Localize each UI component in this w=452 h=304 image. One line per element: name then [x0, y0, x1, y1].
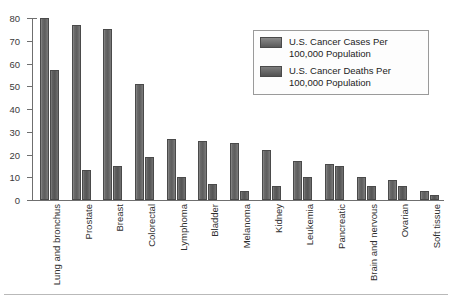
bar-cases	[198, 141, 207, 200]
y-axis-tick-label: 20	[0, 151, 20, 161]
footer-divider	[4, 294, 448, 295]
y-axis-tick	[27, 200, 32, 201]
legend-swatch-deaths-icon	[260, 66, 282, 77]
legend-item-deaths: U.S. Cancer Deaths Per 100,000 Populatio…	[260, 65, 422, 88]
y-axis-tick	[27, 155, 32, 156]
y-axis-tick-label: 0	[0, 196, 20, 206]
bar-group	[72, 18, 92, 200]
bar-cases	[72, 25, 81, 200]
y-axis-tick	[27, 132, 32, 133]
bar-deaths	[113, 166, 122, 200]
bar-cases	[357, 177, 366, 200]
x-axis-label: Breast	[115, 204, 125, 231]
bar-group	[103, 18, 123, 200]
bar-group	[135, 18, 155, 200]
y-axis-tick	[27, 64, 32, 65]
legend-label-cases-line1: U.S. Cancer Cases Per	[289, 36, 388, 47]
y-axis-tick-label: 60	[0, 60, 20, 70]
bar-cases	[388, 180, 397, 200]
bar-deaths	[145, 157, 154, 200]
bar-deaths	[240, 191, 249, 200]
x-axis-label: Leukemia	[305, 204, 315, 245]
x-axis-label: Melanoma	[242, 204, 252, 248]
bar-cases	[262, 150, 271, 200]
bar-deaths	[177, 177, 186, 200]
y-axis-line	[32, 18, 33, 200]
x-axis-label: Prostate	[84, 204, 94, 239]
y-axis-tick	[27, 41, 32, 42]
x-axis-label: Colorectal	[147, 204, 157, 247]
bar-cases	[325, 164, 334, 200]
x-axis-label: Ovarian	[400, 204, 410, 237]
bar-deaths	[430, 195, 439, 200]
x-axis-label: Kidney	[274, 204, 284, 233]
y-axis-tick	[27, 109, 32, 110]
bar-group	[40, 18, 60, 200]
bar-deaths	[50, 70, 59, 200]
x-axis-line	[32, 200, 444, 201]
y-axis-tick	[27, 177, 32, 178]
legend-label-deaths-line1: U.S. Cancer Deaths Per	[289, 65, 391, 76]
legend-label-deaths-line2: 100,000 Population	[289, 77, 371, 88]
legend-label-cases: U.S. Cancer Cases Per 100,000 Population	[289, 36, 388, 59]
y-axis-tick-label: 10	[0, 173, 20, 183]
bar-group	[230, 18, 250, 200]
bar-deaths	[367, 186, 376, 200]
bar-chart: 01020304050607080 Lung and bronchusProst…	[0, 0, 452, 304]
bar-cases	[230, 143, 239, 200]
y-axis-top-cap	[32, 18, 37, 19]
legend-swatch-cases-icon	[260, 37, 282, 48]
y-axis-bottom-cap	[32, 200, 37, 201]
x-axis-label: Brain and nervous	[369, 204, 379, 281]
chart-legend: U.S. Cancer Cases Per 100,000 Population…	[253, 30, 429, 95]
bar-cases	[167, 139, 176, 200]
y-axis-tick-label: 40	[0, 105, 20, 115]
legend-label-deaths: U.S. Cancer Deaths Per 100,000 Populatio…	[289, 65, 391, 88]
x-axis-label: Pancreatic	[337, 204, 347, 249]
bar-deaths	[335, 166, 344, 200]
legend-item-cases: U.S. Cancer Cases Per 100,000 Population	[260, 36, 422, 59]
bar-cases	[420, 191, 429, 200]
bar-deaths	[208, 184, 217, 200]
bar-cases	[293, 161, 302, 200]
bar-cases	[135, 84, 144, 200]
x-axis-label: Soft tissue	[432, 204, 442, 248]
y-axis-tick-label: 30	[0, 128, 20, 138]
y-axis-tick-label: 80	[0, 14, 20, 24]
bar-deaths	[398, 186, 407, 200]
bar-cases	[103, 29, 112, 200]
x-axis-label: Lung and bronchus	[52, 204, 62, 285]
y-axis-tick	[27, 18, 32, 19]
x-axis-label: Lymphoma	[179, 204, 189, 251]
bar-cases	[40, 18, 49, 200]
bar-deaths	[272, 186, 281, 200]
bar-group	[167, 18, 187, 200]
bar-deaths	[303, 177, 312, 200]
bar-deaths	[82, 170, 91, 200]
legend-label-cases-line2: 100,000 Population	[289, 48, 371, 59]
y-axis-tick	[27, 86, 32, 87]
y-axis-tick-label: 70	[0, 37, 20, 47]
bar-group	[198, 18, 218, 200]
y-axis-tick-label: 50	[0, 82, 20, 92]
x-axis-label: Bladder	[210, 204, 220, 237]
